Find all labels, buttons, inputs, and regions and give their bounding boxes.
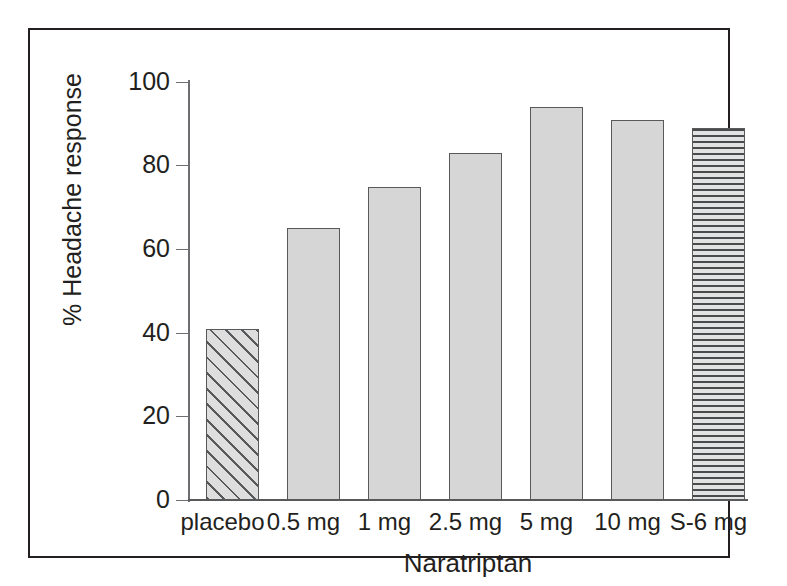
y-tick-40 — [176, 333, 188, 334]
x-axis-title: Naratriptan — [190, 548, 746, 579]
y-tick-20 — [176, 416, 188, 417]
bar-placebo — [206, 329, 259, 500]
y-tick-label-80: 80 — [118, 152, 170, 177]
x-tick-label-s-6-mg: S-6 mg — [642, 510, 775, 534]
bar-s-6-mg — [692, 128, 745, 500]
y-tick-0 — [176, 500, 188, 501]
y-tick-label-20: 20 — [118, 403, 170, 428]
bar-10-mg — [611, 120, 664, 500]
y-tick-80 — [176, 165, 188, 166]
figure-border-frame: 100 80 60 40 20 0 % Headache response — [28, 28, 730, 558]
y-tick-60 — [176, 249, 188, 250]
y-tick-label-0: 0 — [118, 487, 170, 512]
figure-container: 100 80 60 40 20 0 % Headache response — [0, 0, 787, 586]
y-tick-label-100: 100 — [118, 69, 170, 94]
bar-0-5-mg — [287, 228, 340, 500]
y-tick-100 — [176, 82, 188, 83]
bar-2-5-mg — [449, 153, 502, 500]
y-tick-label-40: 40 — [118, 320, 170, 345]
y-tick-label-60: 60 — [118, 236, 170, 261]
bar-5-mg — [530, 107, 583, 500]
bar-1-mg — [368, 187, 421, 501]
plot-area — [190, 82, 746, 500]
y-axis-title: % Headache response — [58, 35, 87, 365]
